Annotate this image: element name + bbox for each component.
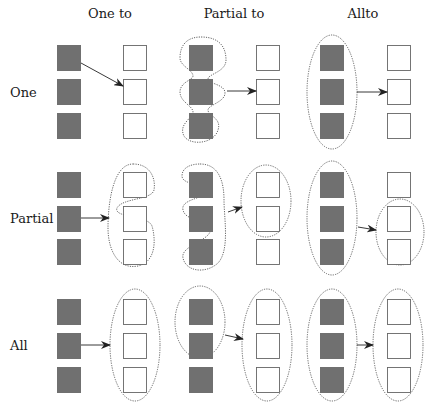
arrow-row2-col3: [358, 227, 376, 230]
source-tiles: [57, 45, 344, 393]
arrow-row2-col2: [228, 207, 242, 212]
arrow-row3-col2: [225, 335, 243, 339]
arrow-row1-col1: [81, 63, 123, 86]
target-tiles: [124, 46, 411, 393]
mapping-diagram: [0, 0, 432, 413]
